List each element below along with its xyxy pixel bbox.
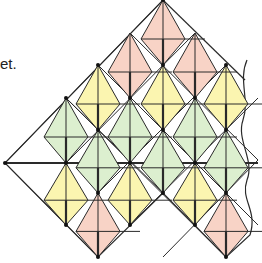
vertex-dot	[161, 128, 165, 132]
kite-tiling-diagram	[0, 0, 262, 263]
vertex-dot	[64, 161, 68, 165]
vertex-dot	[96, 255, 100, 259]
vertex-dot	[64, 223, 68, 227]
vertex-dot	[96, 63, 100, 67]
vertex-dot	[193, 161, 197, 165]
vertex-dot	[224, 63, 228, 67]
vertex-dot	[224, 128, 228, 132]
vertex-dot	[161, 63, 165, 67]
vertex-dot	[224, 191, 228, 195]
vertex-dot	[128, 96, 132, 100]
vertex-dot	[224, 255, 228, 259]
vertex-dot	[193, 223, 197, 227]
vertex-dot	[193, 96, 197, 100]
vertex-dot	[96, 128, 100, 132]
vertex-dot	[161, 191, 165, 195]
vertex-dot	[64, 96, 68, 100]
vertex-dot	[128, 223, 132, 227]
vertex-dot	[3, 161, 7, 165]
vertex-dot	[96, 191, 100, 195]
vertex-dot	[128, 161, 132, 165]
